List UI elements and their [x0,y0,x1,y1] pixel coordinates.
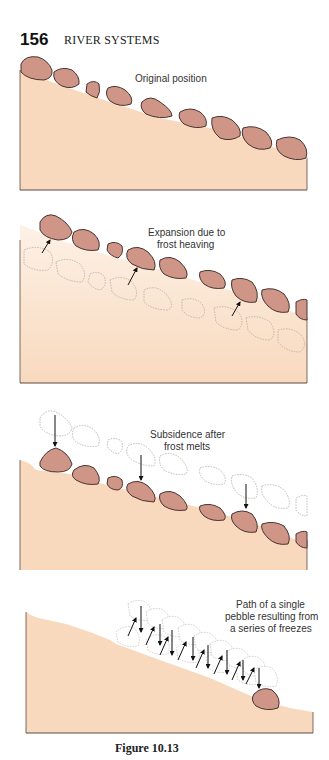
panel-expansion: Expansion due to frost heaving [20,215,307,383]
label-subsidence-line1: Subsidence after [150,429,226,440]
label-path-line3: a series of freezes [230,623,312,634]
label-path-line1: Path of a single [236,599,305,610]
frost-creep-figure: Original position [0,0,329,760]
label-original-position: Original position [135,73,207,84]
figure-caption: Figure 10.13 [115,741,179,756]
panel-subsidence: Subsidence after frost melts [20,411,307,570]
slope-soil [20,70,307,190]
slope-soil [20,460,307,570]
panel-pebble-path: Path of a single pebble resulting from a… [26,599,318,733]
label-subsidence-line2: frost melts [164,441,210,452]
label-expansion-line2: frost heaving [157,239,214,250]
label-expansion-line1: Expansion due to [148,227,226,238]
final-pebble [252,689,279,710]
panel-original-position: Original position [20,57,307,190]
label-path-line2: pebble resulting from [225,611,318,622]
